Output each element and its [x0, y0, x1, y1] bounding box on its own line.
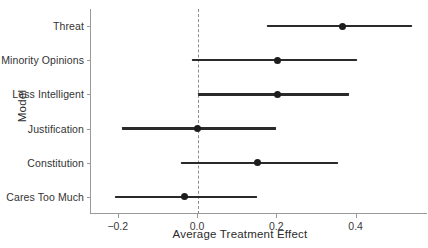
x-axis-title: Average Treatment Effect — [90, 228, 390, 240]
y-axis-tick-mark — [87, 26, 91, 27]
y-axis-tick-mark — [87, 94, 91, 95]
y-axis-tick-label: Threat — [53, 20, 84, 32]
x-axis-tick-mark — [197, 214, 198, 218]
y-axis-tick-mark — [87, 129, 91, 130]
x-axis-tick-mark — [276, 214, 277, 218]
estimate-point — [274, 57, 281, 64]
y-axis-tick-mark — [87, 60, 91, 61]
y-axis-tick-label: Justification — [28, 123, 84, 135]
estimate-point — [194, 125, 201, 132]
estimate-point — [254, 159, 261, 166]
x-axis-tick-mark — [118, 214, 119, 218]
y-axis-tick-label: Constitution — [27, 157, 84, 169]
plot-panel — [90, 9, 427, 214]
y-axis-tick-label: Less Intelligent — [12, 88, 84, 100]
y-axis-tick-label: Cares Too Much — [6, 191, 84, 203]
estimate-point — [274, 91, 281, 98]
y-axis-tick-labels: ThreatMinority OpinionsLess IntelligentJ… — [0, 9, 84, 214]
estimate-point — [181, 193, 188, 200]
x-axis-tick-mark — [356, 214, 357, 218]
estimate-point — [339, 23, 346, 30]
y-axis-tick-mark — [87, 163, 91, 164]
y-axis-tick-mark — [87, 197, 91, 198]
coefficient-plot-figure: Model ThreatMinority OpinionsLess Intell… — [0, 0, 428, 248]
zero-reference-line — [198, 9, 199, 214]
y-axis-tick-label: Minority Opinions — [1, 54, 84, 66]
